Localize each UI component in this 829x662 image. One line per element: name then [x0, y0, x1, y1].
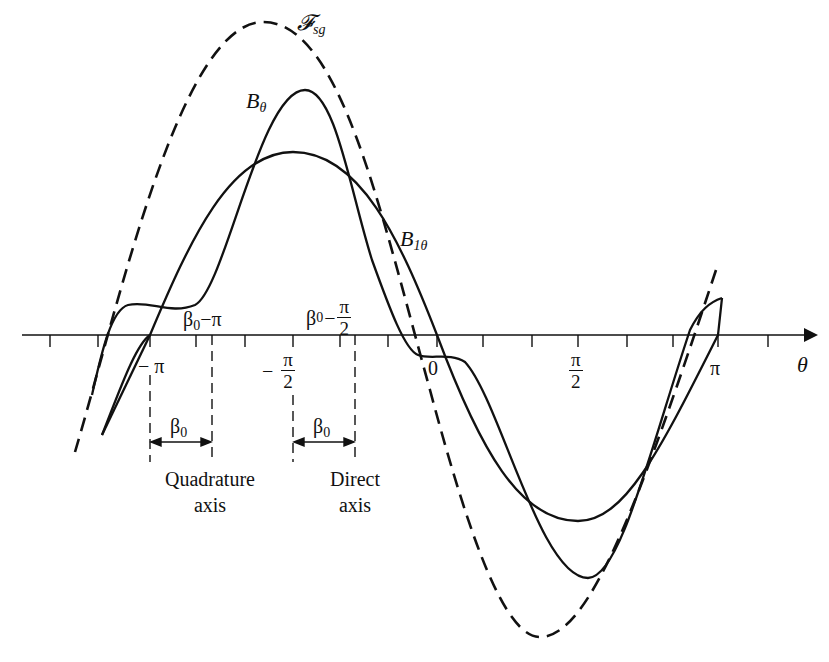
beta0-direct-label: β0: [313, 416, 330, 440]
fsg-curve: [75, 22, 716, 637]
b1theta-label: B1θ: [400, 228, 427, 253]
beta0-quadrature-label: β0: [170, 416, 187, 440]
quadrature-axis-caption: Quadrature axis: [140, 466, 280, 518]
btheta-label: Bθ: [246, 90, 266, 115]
beta0-minus-pi-label: β0−π: [183, 309, 222, 333]
axis-arrow-icon: [804, 328, 818, 342]
construction-lines: [150, 335, 355, 462]
fsg-label: 𝓕sg: [297, 12, 325, 37]
direct-axis-caption: Direct axis: [310, 466, 400, 518]
tick-label-neg-pi: − π: [138, 356, 164, 376]
tick-label-zero: 0: [428, 358, 438, 378]
tick-label-half-pi: π2: [569, 350, 583, 391]
diagram-canvas: [0, 0, 829, 662]
tick-label-pi: π: [710, 358, 720, 378]
tick-label-neg-half-pi: − π2: [262, 350, 295, 391]
beta0-minus-half-pi-label: β0− π2: [306, 297, 351, 338]
theta-axis-label: θ: [797, 354, 808, 376]
